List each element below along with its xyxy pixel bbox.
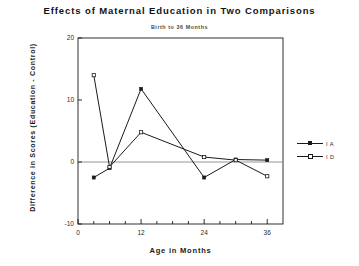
- x-axis-tick-labels: 1224360: [0, 229, 359, 243]
- y-axis-tick-labels: 20100-10: [48, 0, 74, 266]
- y-tick-label: 20: [48, 34, 74, 41]
- x-tick-label: 12: [126, 229, 156, 236]
- y-axis-label: Difference in Scores (Education - Contro…: [29, 33, 36, 223]
- data-series-1: [92, 87, 269, 179]
- y-tick-label: 0: [48, 158, 74, 165]
- y-tick-label: 10: [48, 96, 74, 103]
- legend-item-series-a[interactable]: I A: [297, 137, 359, 150]
- x-tick-label: 24: [189, 229, 219, 236]
- legend-item-series-d[interactable]: I D: [297, 150, 359, 163]
- chart-legend: I A I D: [297, 137, 359, 163]
- chart-figure: Effects of Maternal Education in Two Com…: [0, 0, 359, 266]
- y-axis-tick-marks: [78, 38, 82, 224]
- data-series-layer: [92, 74, 269, 179]
- x-axis-label: Age in Months: [78, 246, 283, 255]
- legend-label-series-d: I D: [326, 154, 335, 160]
- x-tick-label: 36: [252, 229, 282, 236]
- legend-line-open-square-icon: [297, 152, 323, 161]
- legend-line-filled-square-icon: [297, 139, 323, 148]
- x-tick-label-origin: 0: [63, 229, 93, 236]
- y-tick-label: -10: [48, 220, 74, 227]
- legend-label-series-a: I A: [326, 141, 334, 147]
- axis-frame: [78, 38, 283, 224]
- x-axis-tick-marks: [78, 219, 267, 224]
